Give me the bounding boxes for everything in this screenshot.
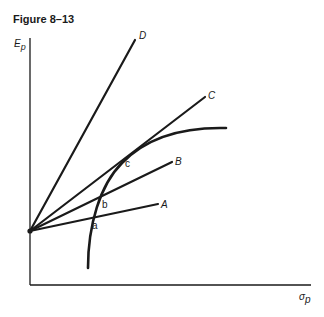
point-label-a: a: [92, 220, 98, 231]
line-d: [30, 40, 135, 231]
line-label-d: D: [139, 30, 146, 41]
riskless-rate-point: [27, 228, 32, 233]
line-label-c: C: [208, 90, 216, 101]
point-label-c: c: [125, 158, 130, 169]
efficient-frontier-curve: [88, 128, 226, 268]
point-label-b: b: [102, 199, 108, 210]
x-axis-label: σp: [299, 291, 311, 305]
efficient-frontier-diagram: Ep σp A B C D a b c: [0, 0, 324, 317]
line-label-a: A: [160, 199, 168, 210]
line-label-b: B: [175, 156, 182, 167]
y-axis-label: Ep: [14, 38, 26, 52]
